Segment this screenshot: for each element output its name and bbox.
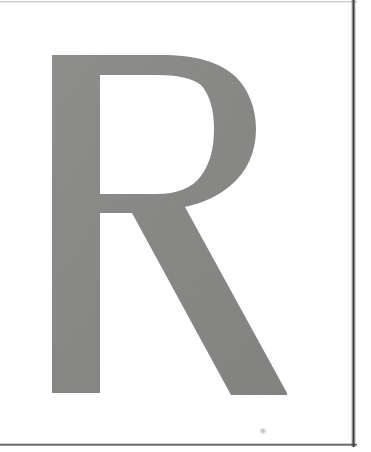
scanned-page: R Scanned page showing a single large ca… bbox=[0, 0, 371, 452]
top-scan-rule bbox=[0, 1, 363, 3]
bottom-margin-strip bbox=[0, 447, 371, 452]
right-margin-strip bbox=[357, 0, 371, 452]
bottom-scan-rule bbox=[0, 443, 357, 446]
letter-r-path bbox=[52, 55, 287, 395]
letter-r-glyph bbox=[0, 0, 371, 452]
dust-speck bbox=[261, 429, 265, 433]
right-scan-rule bbox=[351, 0, 356, 447]
